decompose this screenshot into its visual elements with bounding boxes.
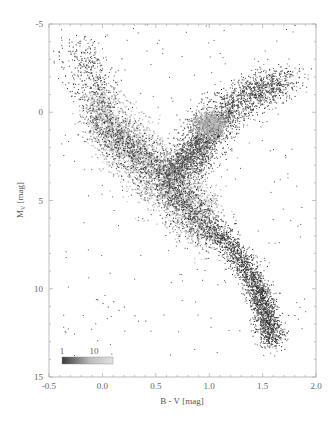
y-tick-label: -5: [36, 19, 44, 29]
colorbar-label-max: 10: [90, 346, 100, 356]
y-tick-label: 0: [39, 107, 44, 117]
x-tick-label: 0.5: [150, 381, 162, 391]
colorbar-label-min: 1: [60, 346, 65, 356]
x-tick-labels: -0.50.00.51.01.52.0: [42, 381, 322, 391]
y-axis-title: MV [mag]: [15, 182, 26, 218]
y-tick-labels: -5051015: [34, 19, 44, 382]
x-tick-label: 1.5: [257, 381, 269, 391]
y-axis-title-unit: [mag]: [15, 182, 25, 206]
x-tick-label: -0.5: [42, 381, 57, 391]
x-tick-label: 1.0: [204, 381, 216, 391]
y-tick-label: 5: [39, 196, 44, 206]
x-tick-label: 0.0: [97, 381, 109, 391]
y-tick-label: 10: [34, 284, 44, 294]
y-tick-label: 15: [34, 372, 44, 382]
svg-text:MV [mag]: MV [mag]: [15, 182, 26, 218]
colorbar: 1 10: [60, 346, 113, 364]
colorbar-gradient: [62, 357, 113, 364]
x-axis-title: B - V [mag]: [160, 396, 203, 406]
hr-diagram: -0.50.00.51.01.52.0 -5051015 B - V [mag]…: [0, 0, 336, 423]
plot-points: [53, 24, 312, 356]
y-axis-title-main: M: [15, 210, 25, 218]
x-tick-label: 2.0: [310, 381, 322, 391]
